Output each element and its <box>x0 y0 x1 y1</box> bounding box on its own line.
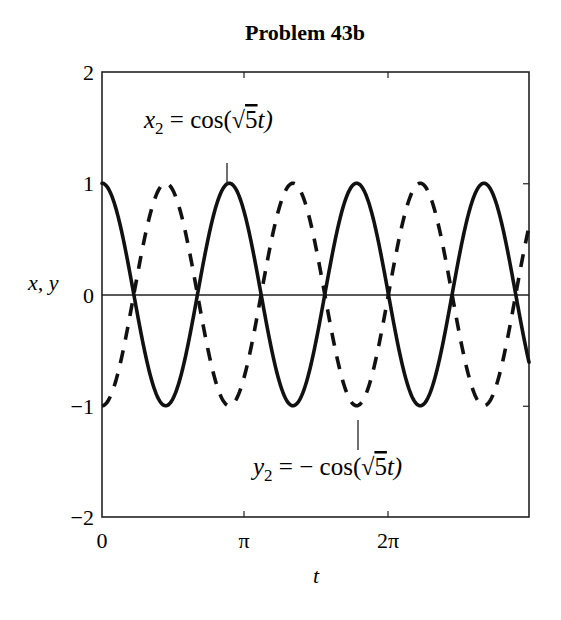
y-tick-label-neg2: −2 <box>71 505 94 530</box>
x-tick-label-0: 0 <box>97 528 108 553</box>
y-tick-label-0: 0 <box>83 283 94 308</box>
x-tick-label-pi: π <box>238 528 249 553</box>
x-axis-label: t <box>313 563 320 588</box>
annotation-x2: x2 = cos(√5t) <box>143 106 273 138</box>
chart: Problem 43b 0 π 2π 2 1 0 −1 −2 t x, y x2… <box>0 0 561 620</box>
x-tick-label-2pi: 2π <box>377 528 399 553</box>
annotation-y2: y2 = − cos(√5t) <box>250 453 402 485</box>
y-tick-label-neg1: −1 <box>71 394 94 419</box>
y-tick-label-2: 2 <box>83 60 94 85</box>
chart-title: Problem 43b <box>245 20 365 45</box>
y-tick-label-1: 1 <box>83 171 94 196</box>
y-axis-label: x, y <box>27 270 59 295</box>
